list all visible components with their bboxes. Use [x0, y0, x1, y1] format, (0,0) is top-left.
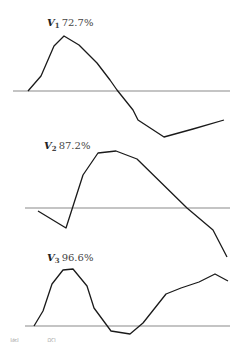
- curve-v3: [34, 269, 228, 334]
- panel-v2: [25, 151, 230, 257]
- curve-v2: [38, 151, 227, 257]
- variable-subscript: 2: [52, 144, 57, 153]
- curve-v1: [28, 36, 224, 137]
- variable-symbol: V: [47, 17, 55, 28]
- variable-symbol: V: [44, 140, 52, 151]
- panel-label-v3: V396.6%: [47, 253, 93, 264]
- percentage-value: 72.7%: [62, 17, 94, 28]
- percentage-value: 96.6%: [62, 252, 94, 263]
- panel-label-v1: V172.7%: [47, 18, 93, 29]
- percentage-value: 87.2%: [59, 140, 91, 151]
- variable-symbol: V: [47, 252, 55, 263]
- figure-caption: 图 . . . 的 . . . . . . . . . . . . . . . …: [10, 338, 235, 342]
- plot-area: [0, 0, 243, 347]
- variable-subscript: 1: [55, 21, 60, 30]
- variable-subscript: 3: [55, 256, 60, 265]
- panel-label-v2: V287.2%: [44, 141, 90, 152]
- figure: V172.7% V287.2% V396.6% 图 . . . 的 . . . …: [0, 0, 243, 347]
- panel-v1: [13, 36, 230, 137]
- panel-v3: [25, 269, 230, 334]
